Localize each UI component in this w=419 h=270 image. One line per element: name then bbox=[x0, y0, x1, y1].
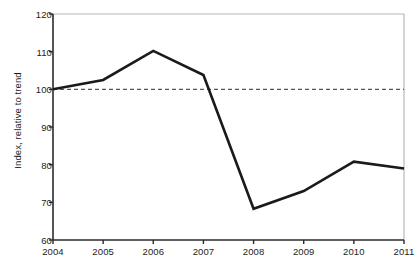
y-tick-label: 80 bbox=[26, 159, 52, 170]
y-tick-label: 70 bbox=[26, 197, 52, 208]
y-axis-title: Index, relative to trend bbox=[6, 0, 28, 240]
x-tick-label: 2010 bbox=[334, 246, 374, 257]
y-tick-label: 100 bbox=[26, 84, 52, 95]
x-tick-label: 2005 bbox=[83, 246, 123, 257]
x-tick-label: 2006 bbox=[133, 246, 173, 257]
data-series-line bbox=[53, 51, 404, 209]
x-tick-label: 2004 bbox=[33, 246, 73, 257]
x-tick-label: 2011 bbox=[384, 246, 419, 257]
x-axis-tick-labels: 20042005200620072008200920102011 bbox=[0, 246, 413, 266]
y-axis-tick-labels: 60708090100110120 bbox=[26, 0, 52, 270]
y-tick-label: 60 bbox=[26, 235, 52, 246]
y-tick-label: 120 bbox=[26, 9, 52, 20]
plot-frame bbox=[53, 14, 404, 240]
x-tick-label: 2008 bbox=[234, 246, 274, 257]
y-tick-label: 90 bbox=[26, 122, 52, 133]
x-tick-label: 2007 bbox=[183, 246, 223, 257]
y-tick-label: 110 bbox=[26, 46, 52, 57]
x-tick-label: 2009 bbox=[284, 246, 324, 257]
y-axis-title-label: Index, relative to trend bbox=[12, 72, 23, 168]
